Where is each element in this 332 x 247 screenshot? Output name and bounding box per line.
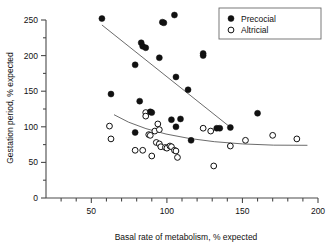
data-point-altricial bbox=[175, 155, 181, 161]
data-point-precocial bbox=[173, 124, 179, 130]
data-point-precocial bbox=[217, 125, 223, 131]
data-point-altricial bbox=[211, 163, 217, 169]
chart-legend: Precocial Altricial bbox=[219, 8, 321, 39]
data-point-precocial bbox=[173, 74, 179, 80]
data-point-precocial bbox=[188, 137, 194, 143]
data-point-altricial bbox=[143, 113, 149, 119]
data-series-altricial bbox=[107, 110, 300, 169]
data-point-precocial bbox=[143, 45, 149, 51]
y-tick-label: 100 bbox=[24, 122, 38, 132]
data-point-precocial bbox=[161, 20, 167, 26]
x-tick-label: 150 bbox=[235, 206, 249, 216]
data-point-precocial bbox=[99, 16, 105, 22]
fit-line-precocial bbox=[102, 25, 229, 126]
y-tick-label: 150 bbox=[24, 86, 38, 96]
x-axis-title: Basal rate of metabolism, % expected bbox=[115, 232, 258, 242]
legend-marker-altricial bbox=[228, 27, 234, 33]
data-point-altricial bbox=[132, 147, 138, 153]
data-point-altricial bbox=[200, 125, 206, 131]
legend-label-altricial: Altricial bbox=[241, 25, 269, 35]
data-point-altricial bbox=[149, 153, 155, 159]
y-tick-label: 50 bbox=[29, 157, 39, 167]
x-tick-label: 50 bbox=[87, 206, 97, 216]
chart-axes bbox=[46, 20, 318, 198]
data-point-altricial bbox=[270, 132, 276, 138]
data-point-precocial bbox=[171, 12, 177, 18]
data-point-altricial bbox=[155, 121, 161, 127]
x-axis-tick-labels: 50100150200 bbox=[87, 206, 326, 216]
data-point-altricial bbox=[173, 148, 179, 154]
data-point-altricial bbox=[140, 147, 146, 153]
chart-canvas: 050100150200250 50100150200 Basal rate o… bbox=[0, 0, 332, 247]
data-point-altricial bbox=[227, 143, 233, 149]
data-point-precocial bbox=[177, 116, 183, 122]
data-point-altricial bbox=[156, 127, 162, 133]
y-axis-title: Gestation period, % expected bbox=[5, 52, 15, 164]
data-point-altricial bbox=[107, 123, 113, 129]
data-point-precocial bbox=[132, 129, 138, 135]
x-axis-ticks bbox=[61, 198, 318, 203]
data-point-precocial bbox=[168, 117, 174, 123]
data-point-precocial bbox=[227, 125, 233, 131]
x-tick-label: 200 bbox=[311, 206, 325, 216]
data-point-precocial bbox=[137, 98, 143, 104]
data-point-precocial bbox=[132, 62, 138, 68]
data-point-precocial bbox=[149, 110, 155, 116]
y-tick-label: 200 bbox=[24, 51, 38, 61]
legend-label-precocial: Precocial bbox=[241, 14, 276, 24]
legend-marker-precocial bbox=[228, 16, 234, 22]
data-point-precocial bbox=[185, 87, 191, 93]
y-tick-label: 250 bbox=[24, 15, 38, 25]
data-point-precocial bbox=[200, 53, 206, 59]
y-axis-ticks bbox=[41, 20, 46, 198]
x-tick-label: 100 bbox=[160, 206, 174, 216]
data-point-altricial bbox=[294, 136, 300, 142]
data-point-altricial bbox=[243, 137, 249, 143]
scatter-plot-figure: 050100150200250 50100150200 Basal rate o… bbox=[0, 0, 332, 247]
data-point-precocial bbox=[255, 110, 261, 116]
data-point-precocial bbox=[156, 55, 162, 61]
data-point-altricial bbox=[208, 128, 214, 134]
y-axis-tick-labels: 050100150200250 bbox=[24, 15, 38, 203]
data-point-precocial bbox=[108, 91, 114, 97]
data-point-altricial bbox=[108, 136, 114, 142]
y-tick-label: 0 bbox=[33, 193, 38, 203]
